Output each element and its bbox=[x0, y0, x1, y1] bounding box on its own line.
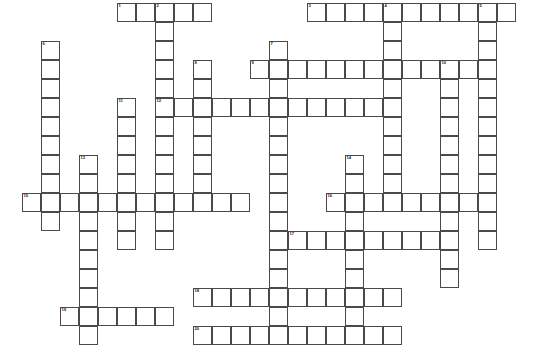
crossword-cell[interactable] bbox=[345, 269, 364, 288]
crossword-cell[interactable] bbox=[155, 22, 174, 41]
crossword-cell[interactable] bbox=[269, 98, 288, 117]
crossword-cell[interactable] bbox=[383, 60, 402, 79]
crossword-cell[interactable] bbox=[402, 3, 421, 22]
crossword-cell[interactable] bbox=[117, 136, 136, 155]
crossword-cell[interactable] bbox=[117, 3, 136, 22]
crossword-cell[interactable] bbox=[250, 288, 269, 307]
crossword-cell[interactable] bbox=[79, 269, 98, 288]
crossword-cell[interactable] bbox=[41, 212, 60, 231]
crossword-cell[interactable] bbox=[193, 98, 212, 117]
crossword-cell[interactable] bbox=[307, 326, 326, 345]
crossword-cell[interactable] bbox=[117, 98, 136, 117]
crossword-cell[interactable] bbox=[193, 174, 212, 193]
crossword-cell[interactable] bbox=[345, 288, 364, 307]
crossword-cell[interactable] bbox=[41, 41, 60, 60]
crossword-cell[interactable] bbox=[326, 326, 345, 345]
crossword-cell[interactable] bbox=[478, 117, 497, 136]
crossword-cell[interactable] bbox=[155, 117, 174, 136]
crossword-cell[interactable] bbox=[345, 231, 364, 250]
crossword-cell[interactable] bbox=[269, 117, 288, 136]
crossword-cell[interactable] bbox=[307, 288, 326, 307]
crossword-cell[interactable] bbox=[136, 193, 155, 212]
crossword-cell[interactable] bbox=[117, 193, 136, 212]
crossword-cell[interactable] bbox=[174, 193, 193, 212]
crossword-cell[interactable] bbox=[440, 60, 459, 79]
crossword-cell[interactable] bbox=[326, 98, 345, 117]
crossword-cell[interactable] bbox=[41, 117, 60, 136]
crossword-cell[interactable] bbox=[136, 307, 155, 326]
crossword-cell[interactable] bbox=[155, 60, 174, 79]
crossword-cell[interactable] bbox=[478, 79, 497, 98]
crossword-cell[interactable] bbox=[174, 3, 193, 22]
crossword-cell[interactable] bbox=[41, 98, 60, 117]
crossword-cell[interactable] bbox=[193, 288, 212, 307]
crossword-cell[interactable] bbox=[269, 41, 288, 60]
crossword-cell[interactable] bbox=[288, 60, 307, 79]
crossword-cell[interactable] bbox=[478, 193, 497, 212]
crossword-cell[interactable] bbox=[440, 174, 459, 193]
crossword-cell[interactable] bbox=[136, 3, 155, 22]
crossword-cell[interactable] bbox=[307, 231, 326, 250]
crossword-cell[interactable] bbox=[478, 98, 497, 117]
crossword-cell[interactable] bbox=[79, 155, 98, 174]
crossword-cell[interactable] bbox=[193, 3, 212, 22]
crossword-cell[interactable] bbox=[155, 155, 174, 174]
crossword-cell[interactable] bbox=[79, 193, 98, 212]
crossword-cell[interactable] bbox=[41, 193, 60, 212]
crossword-cell[interactable] bbox=[155, 174, 174, 193]
crossword-cell[interactable] bbox=[364, 193, 383, 212]
crossword-cell[interactable] bbox=[421, 231, 440, 250]
crossword-cell[interactable] bbox=[478, 231, 497, 250]
crossword-cell[interactable] bbox=[383, 174, 402, 193]
crossword-cell[interactable] bbox=[345, 155, 364, 174]
crossword-cell[interactable] bbox=[288, 231, 307, 250]
crossword-cell[interactable] bbox=[402, 193, 421, 212]
crossword-cell[interactable] bbox=[440, 98, 459, 117]
crossword-cell[interactable] bbox=[212, 98, 231, 117]
crossword-cell[interactable] bbox=[155, 193, 174, 212]
crossword-cell[interactable] bbox=[79, 212, 98, 231]
crossword-cell[interactable] bbox=[440, 136, 459, 155]
crossword-cell[interactable] bbox=[288, 288, 307, 307]
crossword-cell[interactable] bbox=[440, 79, 459, 98]
crossword-cell[interactable] bbox=[440, 212, 459, 231]
crossword-cell[interactable] bbox=[478, 22, 497, 41]
crossword-cell[interactable] bbox=[269, 269, 288, 288]
crossword-cell[interactable] bbox=[326, 3, 345, 22]
crossword-cell[interactable] bbox=[478, 155, 497, 174]
crossword-cell[interactable] bbox=[383, 193, 402, 212]
crossword-cell[interactable] bbox=[478, 136, 497, 155]
crossword-cell[interactable] bbox=[193, 193, 212, 212]
crossword-cell[interactable] bbox=[117, 174, 136, 193]
crossword-cell[interactable] bbox=[421, 193, 440, 212]
crossword-cell[interactable] bbox=[497, 3, 516, 22]
crossword-cell[interactable] bbox=[440, 3, 459, 22]
crossword-cell[interactable] bbox=[155, 41, 174, 60]
crossword-cell[interactable] bbox=[383, 231, 402, 250]
crossword-cell[interactable] bbox=[383, 155, 402, 174]
crossword-cell[interactable] bbox=[421, 3, 440, 22]
crossword-cell[interactable] bbox=[459, 193, 478, 212]
crossword-cell[interactable] bbox=[383, 41, 402, 60]
crossword-cell[interactable] bbox=[155, 98, 174, 117]
crossword-cell[interactable] bbox=[269, 326, 288, 345]
crossword-cell[interactable] bbox=[269, 231, 288, 250]
crossword-cell[interactable] bbox=[41, 79, 60, 98]
crossword-cell[interactable] bbox=[60, 193, 79, 212]
crossword-cell[interactable] bbox=[383, 98, 402, 117]
crossword-cell[interactable] bbox=[383, 117, 402, 136]
crossword-cell[interactable] bbox=[364, 288, 383, 307]
crossword-cell[interactable] bbox=[212, 193, 231, 212]
crossword-cell[interactable] bbox=[345, 193, 364, 212]
crossword-cell[interactable] bbox=[269, 288, 288, 307]
crossword-cell[interactable] bbox=[269, 250, 288, 269]
crossword-cell[interactable] bbox=[269, 155, 288, 174]
crossword-cell[interactable] bbox=[22, 193, 41, 212]
crossword-cell[interactable] bbox=[307, 98, 326, 117]
crossword-grid[interactable]: 1234567891011121314151617181920 bbox=[0, 0, 549, 362]
crossword-cell[interactable] bbox=[79, 250, 98, 269]
crossword-cell[interactable] bbox=[155, 79, 174, 98]
crossword-cell[interactable] bbox=[345, 3, 364, 22]
crossword-cell[interactable] bbox=[459, 3, 478, 22]
crossword-cell[interactable] bbox=[79, 231, 98, 250]
